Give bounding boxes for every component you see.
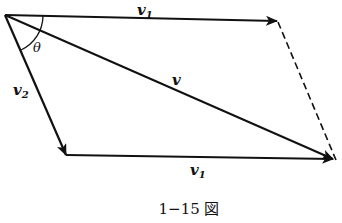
figure-caption: 1−15 図 — [0, 197, 342, 218]
label-v2: v2 — [13, 81, 29, 100]
label-v1-top: v1 — [137, 1, 153, 20]
label-v1-bottom: v1 — [190, 161, 206, 180]
vector-v1-bottom — [66, 155, 333, 159]
parallelogram-diagram: v1 θ v2 v v1 — [0, 0, 342, 223]
label-theta: θ — [33, 40, 41, 55]
label-v-resultant: v — [172, 71, 181, 89]
